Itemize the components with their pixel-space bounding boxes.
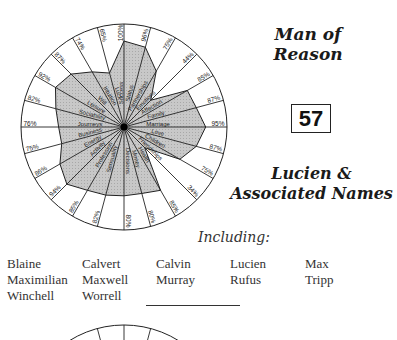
name-item: Maxwell	[82, 272, 128, 288]
name-item: Lucien	[230, 256, 266, 272]
name-item: Maximilian	[7, 272, 68, 288]
name-item: Winchell	[7, 288, 54, 304]
including-label: Including:	[198, 229, 270, 245]
subtitle-line-1: Lucien &	[224, 164, 397, 184]
next-chart-spoke	[97, 329, 102, 340]
name-item: Max	[305, 256, 329, 272]
category-label: Marriage	[146, 121, 170, 127]
name-item: Rufus	[230, 272, 261, 288]
name-group-title: Lucien & Associated Names	[224, 164, 397, 204]
next-chart-spoke	[145, 329, 150, 340]
name-item: Blaine	[7, 256, 41, 272]
name-item: Murray	[156, 272, 195, 288]
section-divider	[146, 305, 240, 306]
category-label: Journeys	[78, 121, 102, 127]
name-item: Calvin	[156, 256, 191, 272]
title-line-2: Reason	[243, 44, 373, 64]
name-item: Worrell	[82, 288, 121, 304]
profile-number-badge: 57	[291, 104, 331, 133]
subtitle-line-2: Associated Names	[224, 184, 397, 204]
name-item: Calvert	[82, 256, 120, 272]
value-label: 76%	[23, 120, 36, 127]
value-label: 80%	[125, 214, 132, 227]
value-label: 95%	[211, 120, 224, 127]
name-item: Tripp	[305, 272, 333, 288]
chart-title: Man of Reason	[243, 24, 373, 64]
center-dot	[121, 124, 128, 131]
category-label: Decisions	[125, 148, 131, 174]
value-label: 100%	[117, 24, 124, 41]
title-line-1: Man of	[243, 24, 373, 44]
